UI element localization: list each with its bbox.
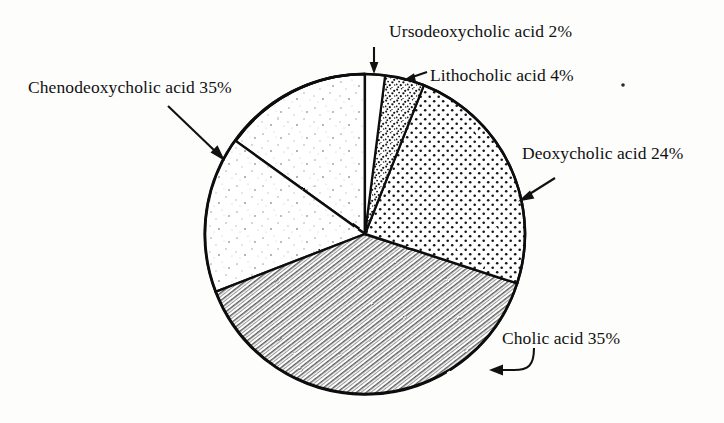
callout-arrow-ursodeoxycholic xyxy=(370,47,379,74)
callout-arrow-lithocholic xyxy=(403,72,427,82)
pie-slices-group xyxy=(205,74,525,394)
slice-label-lithocholic-acid: Lithocholic acid 4% xyxy=(430,66,574,85)
pie-chart-figure: Ursodeoxycholic acid 2% Lithocholic acid… xyxy=(0,0,724,423)
slice-label-chenodeoxycholic-acid: Chenodeoxycholic acid 35% xyxy=(28,78,232,97)
slice-label-cholic-acid: Cholic acid 35% xyxy=(502,329,620,348)
callout-arrow-chenodeoxycholic xyxy=(168,106,225,161)
pie-chart-canvas xyxy=(0,0,724,423)
callout-arrow-deoxycholic xyxy=(518,178,555,202)
callout-arrow-cholic xyxy=(489,348,534,376)
slice-label-deoxycholic-acid: Deoxycholic acid 24% xyxy=(522,144,683,163)
stray-ink-speck xyxy=(621,83,625,87)
slice-label-ursodeoxycholic-acid: Ursodeoxycholic acid 2% xyxy=(389,22,572,41)
